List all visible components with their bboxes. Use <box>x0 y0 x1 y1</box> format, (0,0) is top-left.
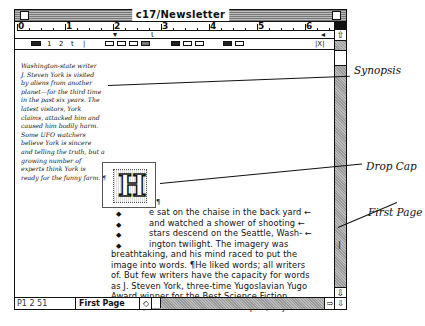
horizontal-scroll-thumb[interactable] <box>152 298 161 308</box>
ruler-number: 3 <box>162 21 168 31</box>
annotation-drop-cap: Drop Cap <box>366 160 417 172</box>
spacing-1-button[interactable]: 1 <box>47 41 51 47</box>
body-line: stars descend on the Seattle, Wash- ← <box>149 228 312 239</box>
synopsis-line: claims, attacked him and <box>21 114 109 123</box>
wrap-bullets: ◆◆◆◆ <box>116 209 121 251</box>
annotation-synopsis: Synopsis <box>354 64 401 76</box>
spacing-2-button[interactable]: 2 <box>59 41 63 47</box>
right-margin-marker[interactable]: ◂ <box>321 31 325 39</box>
body-line: of. But few writers have the capacity fo… <box>111 270 310 281</box>
scroll-up-arrow-icon[interactable]: ⇧ <box>335 30 346 41</box>
zoom-box[interactable] <box>332 11 341 20</box>
body-line: breathtaking, and his mind raced to put … <box>111 249 310 260</box>
close-box[interactable] <box>20 11 29 20</box>
body-line: e sat on the chaise in the back yard ← <box>149 207 312 218</box>
spacing-half-icon[interactable] <box>183 41 192 46</box>
synopsis-line: planet—for the third time <box>21 88 109 97</box>
drop-cap-letter: H <box>118 168 146 203</box>
synopsis-line: in the past six years. The <box>21 96 109 105</box>
page-popup-icon[interactable]: ◇ <box>141 298 152 309</box>
column-one-icon[interactable] <box>223 41 232 46</box>
left-indent-marker[interactable]: ▾ <box>113 31 117 39</box>
justify-icon[interactable] <box>141 41 150 46</box>
ruler-number: 5 <box>258 21 264 31</box>
synopsis-line: growing number of <box>21 157 109 166</box>
body-line: and watched a shower of shooting ← <box>149 218 312 229</box>
tab-button[interactable]: t <box>71 41 74 47</box>
style-selector-icon[interactable] <box>31 41 41 46</box>
format-toolbar: 1 2 t | |X| <box>15 39 335 50</box>
column-two-icon[interactable] <box>235 41 244 46</box>
decimal-tab-button[interactable]: | <box>83 41 85 47</box>
synopsis-line: ready for the funny farm. ¶ <box>21 174 109 183</box>
synopsis-line: Some UFO watchers <box>21 131 109 140</box>
ibeam-cursor-icon: I <box>338 240 341 251</box>
body-text-indented[interactable]: e sat on the chaise in the back yard ← a… <box>149 207 312 249</box>
close-ruler-button[interactable]: |X| <box>315 41 325 47</box>
grow-box[interactable]: ⇩ <box>334 297 346 309</box>
synopsis-line: Washington-state writer <box>21 62 109 71</box>
drop-cap-graphic: H <box>113 169 147 203</box>
page-name[interactable]: First Page <box>77 298 140 309</box>
align-center-icon[interactable] <box>117 41 126 46</box>
ruler[interactable]: 0 1 2 3 4 5 6 ▾ ɩ ◂ <box>15 22 335 39</box>
synopsis-line: J. Steven York is visited <box>21 71 109 80</box>
synopsis-line: experts think York is <box>21 165 109 174</box>
vertical-scrollbar[interactable]: ⇧ ⇩ <box>334 22 346 298</box>
align-right-icon[interactable] <box>129 41 138 46</box>
synopsis-line: and telling the truth, but a <box>21 148 109 157</box>
split-bar[interactable] <box>335 22 346 30</box>
title-bar[interactable]: c17/Newsletter <box>15 10 346 22</box>
paragraph-mark: ¶ <box>156 198 160 206</box>
ruler-number: 4 <box>210 21 216 31</box>
synopsis-line: by aliens from another <box>21 79 109 88</box>
synopsis-line: believe York is sincere <box>21 139 109 148</box>
body-line: ington twilight. The imagery was <box>149 239 312 250</box>
synopsis-line: caused him bodily harm. <box>21 122 109 131</box>
synopsis-text[interactable]: Washington-state writer J. Steven York i… <box>21 62 109 182</box>
spacing-double-icon[interactable] <box>195 41 204 46</box>
document-window: c17/Newsletter 0 1 2 3 4 5 6 ▾ ɩ ◂ 1 2 t… <box>14 9 347 310</box>
page-number-indicator: P1 2 51 <box>17 298 76 309</box>
ruler-number: 6 <box>306 21 312 31</box>
annotation-first-page: First Page <box>368 206 422 218</box>
tab-marker[interactable]: ɩ <box>151 31 154 39</box>
synopsis-line: latest visitors, York <box>21 105 109 114</box>
status-bar: P1 2 51 First Page ◇ ⇨ <box>15 297 335 309</box>
ruler-number: 0 <box>18 21 24 31</box>
spacing-single-icon[interactable] <box>171 41 180 46</box>
vertical-scroll-thumb[interactable] <box>335 50 346 66</box>
body-line: image into words. ¶He liked words; all w… <box>111 260 310 271</box>
window-title: c17/Newsletter <box>132 9 230 21</box>
drop-cap-frame[interactable]: H <box>102 162 156 208</box>
horizontal-scrollbar[interactable]: ⇨ <box>152 298 335 309</box>
ruler-number: 1 <box>66 21 72 31</box>
align-left-icon[interactable] <box>105 41 114 46</box>
body-line: as J. Steven York, three-time Yugoslavia… <box>111 281 310 292</box>
